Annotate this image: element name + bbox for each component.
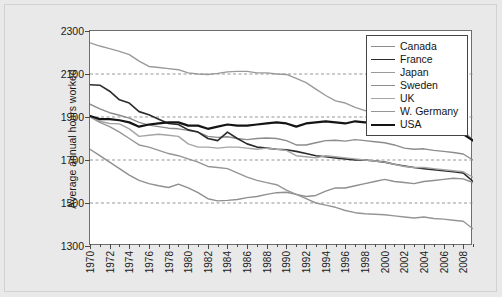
x-tick-label: 2008 — [458, 251, 469, 273]
x-tick-mark — [198, 244, 199, 247]
legend-label-canada: Canada — [400, 40, 437, 53]
y-tick-mark — [85, 203, 90, 204]
y-tick-label: 1300 — [61, 240, 84, 252]
x-tick-mark — [414, 244, 415, 247]
legend-swatch-uk — [371, 98, 395, 99]
legend-item-uk: UK — [371, 92, 462, 105]
chart-legend: Canada France Japan Sweden UK W. Germany — [366, 35, 468, 136]
legend-item-usa: USA — [371, 118, 462, 131]
x-tick-mark — [306, 244, 307, 249]
x-tick-label: 1984 — [222, 251, 233, 273]
x-tick-label: 1982 — [203, 251, 214, 273]
legend-item-w-germany: W. Germany — [371, 105, 462, 118]
x-tick-mark — [394, 244, 395, 247]
x-tick-mark — [237, 244, 238, 247]
x-tick-label: 1994 — [321, 251, 332, 273]
x-tick-label: 1978 — [164, 251, 175, 273]
x-tick-mark — [296, 244, 297, 247]
legend-swatch-sweden — [371, 85, 395, 86]
legend-item-france: France — [371, 53, 462, 66]
x-tick-mark — [355, 244, 356, 247]
x-tick-mark — [286, 244, 287, 249]
x-tick-mark — [365, 244, 366, 249]
x-tick-mark — [473, 244, 474, 247]
x-tick-mark — [444, 244, 445, 249]
x-tick-mark — [139, 244, 140, 247]
legend-label-sweden: Sweden — [400, 79, 438, 92]
x-tick-mark — [169, 244, 170, 249]
x-tick-label: 1974 — [124, 251, 135, 273]
legend-swatch-japan — [371, 72, 395, 73]
x-tick-label: 2000 — [380, 251, 391, 273]
x-tick-mark — [247, 244, 248, 249]
x-tick-label: 2004 — [419, 251, 430, 273]
x-tick-label: 1992 — [301, 251, 312, 273]
y-tick-mark — [85, 31, 90, 32]
y-tick-label: 2300 — [61, 25, 84, 37]
legend-label-france: France — [400, 53, 433, 66]
x-tick-mark — [227, 244, 228, 249]
y-tick-mark — [85, 117, 90, 118]
x-tick-mark — [119, 244, 120, 247]
legend-label-japan: Japan — [400, 66, 429, 79]
x-tick-label: 1970 — [85, 251, 96, 273]
legend-item-canada: Canada — [371, 40, 462, 53]
x-tick-label: 1976 — [144, 251, 155, 273]
x-tick-mark — [336, 244, 337, 247]
x-tick-label: 2006 — [439, 251, 450, 273]
x-tick-label: 1986 — [242, 251, 253, 273]
x-tick-mark — [463, 244, 464, 249]
x-tick-mark — [277, 244, 278, 247]
x-tick-label: 1972 — [105, 251, 116, 273]
x-tick-mark — [159, 244, 160, 247]
x-tick-mark — [316, 244, 317, 247]
x-tick-label: 1998 — [360, 251, 371, 273]
x-tick-mark — [404, 244, 405, 249]
x-tick-mark — [100, 244, 101, 247]
x-tick-mark — [110, 244, 111, 249]
legend-swatch-w-germany — [371, 111, 395, 112]
x-tick-label: 1980 — [183, 251, 194, 273]
plot-area: Average annual hours worked Canada Franc… — [89, 30, 472, 245]
x-tick-mark — [434, 244, 435, 247]
y-tick-label: 1700 — [61, 154, 84, 166]
legend-swatch-canada — [371, 46, 395, 47]
x-tick-mark — [257, 244, 258, 247]
x-tick-label: 2002 — [399, 251, 410, 273]
x-tick-mark — [208, 244, 209, 249]
y-tick-label: 1500 — [61, 197, 84, 209]
x-tick-label: 1990 — [281, 251, 292, 273]
x-tick-mark — [375, 244, 376, 247]
y-tick-label: 1900 — [61, 111, 84, 123]
x-tick-mark — [385, 244, 386, 249]
legend-label-w-germany: W. Germany — [400, 105, 458, 118]
legend-swatch-usa — [371, 124, 395, 126]
x-tick-mark — [218, 244, 219, 247]
legend-label-uk: UK — [400, 92, 415, 105]
legend-item-japan: Japan — [371, 66, 462, 79]
series-line-sweden — [90, 149, 473, 201]
y-tick-mark — [85, 74, 90, 75]
x-tick-mark — [267, 244, 268, 249]
x-tick-label: 1996 — [340, 251, 351, 273]
x-tick-mark — [188, 244, 189, 249]
legend-swatch-france — [371, 59, 395, 60]
legend-label-usa: USA — [400, 118, 422, 131]
x-tick-mark — [129, 244, 130, 249]
chart-page: Average annual hours worked Canada Franc… — [0, 0, 502, 297]
y-tick-mark — [85, 160, 90, 161]
legend-item-sweden: Sweden — [371, 79, 462, 92]
x-tick-mark — [149, 244, 150, 249]
x-tick-mark — [453, 244, 454, 247]
y-tick-label: 2100 — [61, 68, 84, 80]
x-tick-mark — [178, 244, 179, 247]
x-tick-mark — [424, 244, 425, 249]
x-tick-mark — [326, 244, 327, 249]
x-tick-mark — [90, 244, 91, 249]
x-tick-label: 1988 — [262, 251, 273, 273]
x-tick-mark — [345, 244, 346, 249]
